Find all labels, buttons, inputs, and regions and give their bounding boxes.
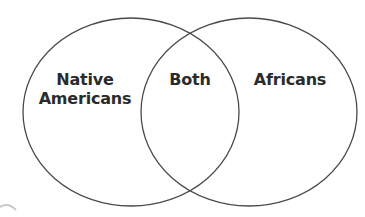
left-set-label-line2: Americans (30, 89, 140, 108)
right-set-label: Africans (240, 70, 340, 89)
corner-arc-icon (0, 205, 16, 210)
left-circle (23, 18, 239, 206)
left-set-label-line1: Native (30, 70, 140, 89)
intersection-label: Both (150, 70, 230, 89)
left-set-label: Native Americans (30, 70, 140, 108)
right-circle (141, 18, 357, 206)
venn-diagram (0, 0, 365, 217)
